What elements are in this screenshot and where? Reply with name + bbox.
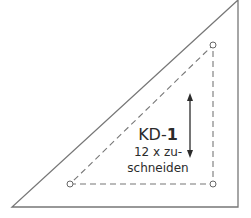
corner-marker-icon [210,42,216,48]
corner-marker-icon [67,181,73,187]
cut-instruction-line1: 12 x zu- [134,145,182,159]
piece-id: KD-1 [138,125,178,144]
cut-instruction-line2: schneiden [127,161,188,175]
pattern-piece-diagram: KD-1 12 x zu- schneiden [0,0,251,218]
corner-marker-icon [210,181,216,187]
grain-line-arrow-icon [187,93,193,158]
cutting-outline [12,0,238,207]
